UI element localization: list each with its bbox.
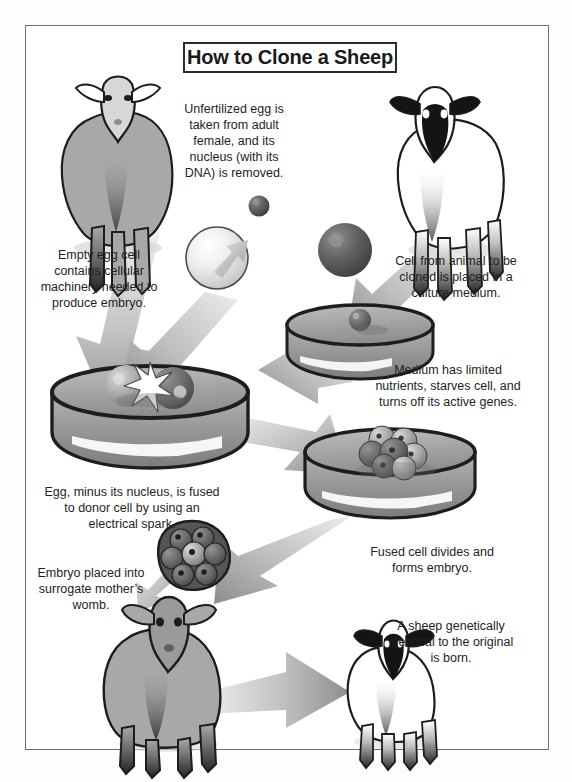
caption-starvation: Medium has limited nutrients, starves ce…: [372, 362, 524, 410]
petri-dish-fusion: [52, 362, 248, 468]
caption-fusion: Egg, minus its nucleus, is fused to dono…: [43, 484, 221, 532]
petri-dish-embryo: [305, 426, 475, 518]
egg-cell-and-nucleus: [186, 196, 270, 290]
arrow-embryo-dish-to-embryo: [214, 516, 352, 604]
donor-cell-sphere: [318, 223, 372, 277]
caption-empty-egg: Empty egg cell contains cellular machine…: [35, 247, 163, 311]
page-title-text: How to Clone a Sheep: [187, 46, 393, 69]
caption-egg-extraction: Unfertilized egg is taken from adult fem…: [175, 101, 293, 181]
caption-implant: Embryo placed into surrogate mother’s wo…: [32, 565, 150, 613]
arrow-surrogate-to-lamb: [206, 652, 350, 728]
sheep-surrogate-mother: [104, 597, 221, 778]
caption-division: Fused cell divides and forms embryo.: [364, 544, 500, 576]
page-title: How to Clone a Sheep: [183, 42, 397, 73]
caption-donor-cell: Cell from animal to be cloned is placed …: [391, 253, 521, 301]
caption-birth: A sheep genetically identical to the ori…: [385, 618, 517, 666]
